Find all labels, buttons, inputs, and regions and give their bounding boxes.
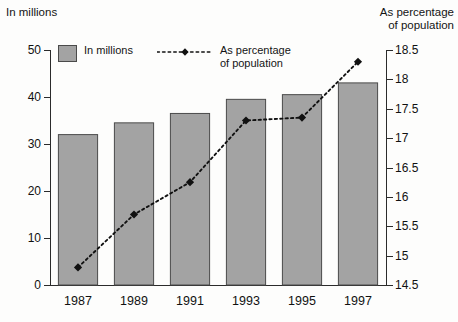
right-axis-tick-mark bbox=[387, 285, 393, 286]
right-axis-tick-label: 16.5 bbox=[395, 161, 418, 175]
x-axis-category-label: 1995 bbox=[288, 294, 316, 308]
right-axis-tick-mark bbox=[387, 109, 393, 110]
right-axis-tick-mark bbox=[387, 50, 393, 51]
right-axis-tick-label: 18 bbox=[395, 72, 408, 86]
x-axis-category-label: 1991 bbox=[176, 294, 204, 308]
right-axis-tick-label: 18.5 bbox=[395, 43, 418, 57]
chart-graphics bbox=[50, 50, 386, 285]
bar bbox=[226, 99, 265, 285]
right-axis-tick-mark bbox=[387, 197, 393, 198]
right-axis-tick-label: 15 bbox=[395, 249, 408, 263]
left-axis-title: In millions bbox=[6, 6, 57, 19]
chart-container: In millions As percentage of population … bbox=[0, 0, 458, 322]
left-axis-tick-label: 50 bbox=[28, 43, 41, 57]
x-axis-category-label: 1989 bbox=[120, 294, 148, 308]
bar-series bbox=[58, 83, 377, 285]
x-axis-line bbox=[50, 285, 387, 286]
right-axis-tick-label: 14.5 bbox=[395, 278, 418, 292]
right-axis-tick-mark bbox=[387, 79, 393, 80]
right-axis-tick-mark bbox=[387, 138, 393, 139]
left-axis-tick-label: 20 bbox=[28, 184, 41, 198]
right-axis-title: As percentage of population bbox=[380, 6, 454, 32]
left-axis-tick-label: 30 bbox=[28, 137, 41, 151]
right-axis-tick-label: 15.5 bbox=[395, 219, 418, 233]
bar bbox=[170, 113, 209, 285]
left-axis-tick-label: 40 bbox=[28, 90, 41, 104]
right-axis-tick-label: 16 bbox=[395, 190, 408, 204]
x-axis-category-label: 1987 bbox=[64, 294, 92, 308]
right-axis-tick-label: 17 bbox=[395, 131, 408, 145]
left-axis-tick-mark bbox=[44, 285, 50, 286]
x-axis-category-label: 1993 bbox=[232, 294, 260, 308]
right-axis-tick-label: 17.5 bbox=[395, 102, 418, 116]
bar bbox=[114, 123, 153, 285]
x-axis-category-label: 1997 bbox=[344, 294, 372, 308]
right-axis-tick-mark bbox=[387, 256, 393, 257]
bar bbox=[282, 95, 321, 285]
bar bbox=[338, 83, 377, 285]
bar bbox=[58, 135, 97, 285]
right-axis-tick-mark bbox=[387, 226, 393, 227]
left-axis-tick-label: 10 bbox=[28, 231, 41, 245]
right-axis-tick-mark bbox=[387, 168, 393, 169]
left-axis-tick-label: 0 bbox=[34, 278, 41, 292]
plot-area: 01020304050 14.51515.51616.51717.51818.5… bbox=[50, 50, 386, 285]
